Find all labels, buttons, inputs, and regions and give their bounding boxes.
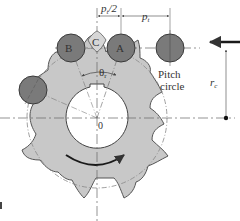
dim-radius-dot bbox=[224, 116, 228, 120]
label-radius: rc bbox=[210, 76, 218, 90]
roller-left bbox=[19, 76, 47, 104]
label-c: C bbox=[92, 36, 99, 48]
label-a: A bbox=[116, 42, 124, 54]
roller-incoming bbox=[156, 30, 184, 66]
label-pitch-circle-1: Pitch bbox=[158, 68, 181, 80]
svg-text:rc: rc bbox=[210, 76, 218, 90]
label-center: 0 bbox=[98, 120, 103, 131]
label-pitch-circle-2: circle bbox=[160, 80, 185, 92]
sprocket-diagram: B C A 0 pt/2 pt θr Pitch circle rc bbox=[0, 0, 240, 221]
label-b: B bbox=[65, 42, 72, 54]
label-pitch: pt bbox=[141, 10, 151, 24]
svg-text:pt: pt bbox=[141, 10, 151, 24]
svg-text:pt/2: pt/2 bbox=[100, 2, 118, 16]
label-half-pitch: pt/2 bbox=[100, 2, 118, 16]
corner-mark bbox=[0, 202, 2, 209]
